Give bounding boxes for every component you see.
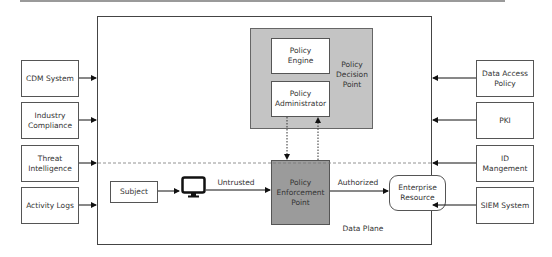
connectors — [0, 0, 552, 257]
